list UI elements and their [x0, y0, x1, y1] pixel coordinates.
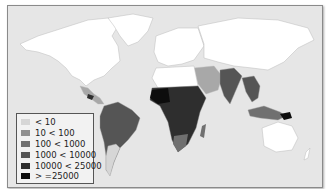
legend-swatch: [21, 141, 30, 147]
region-europe: [154, 28, 204, 66]
legend-swatch: [21, 163, 30, 169]
legend-swatch: [21, 152, 30, 158]
legend-swatch: [21, 130, 30, 136]
legend-label: < 10: [35, 117, 56, 127]
legend-label: 100 < 1000: [35, 139, 85, 149]
world-map-frame: < 10 10 < 100 100 < 1000 1000 < 10000 10…: [7, 5, 323, 188]
legend-label: > =25000: [35, 171, 79, 181]
legend-item: 10000 < 25000: [21, 160, 89, 171]
region-indonesia: [248, 106, 286, 120]
region-north-africa: [152, 66, 198, 88]
region-central-america: [80, 86, 104, 104]
region-madagascar: [200, 124, 206, 138]
legend-item: > =25000: [21, 171, 89, 182]
legend-label: 10 < 100: [35, 128, 75, 138]
legend-swatch: [21, 173, 30, 179]
legend-swatch: [21, 119, 30, 125]
region-southeast-asia: [242, 76, 260, 102]
legend-item: < 10: [21, 117, 89, 128]
legend-label: 1000 < 10000: [35, 150, 96, 160]
region-southern-africa: [173, 134, 188, 152]
region-new-zealand: [304, 148, 310, 160]
region-south-asia: [220, 68, 242, 104]
legend-item: 100 < 1000: [21, 139, 89, 150]
legend-item: 10 < 100: [21, 128, 89, 139]
map-legend: < 10 10 < 100 100 < 1000 1000 < 10000 10…: [16, 113, 94, 184]
region-asia-north: [198, 18, 314, 70]
region-south-america-south: [106, 144, 120, 176]
legend-label: 10000 < 25000: [35, 161, 102, 171]
region-australia: [262, 122, 298, 152]
region-north-america: [20, 18, 120, 86]
legend-item: 1000 < 10000: [21, 149, 89, 160]
